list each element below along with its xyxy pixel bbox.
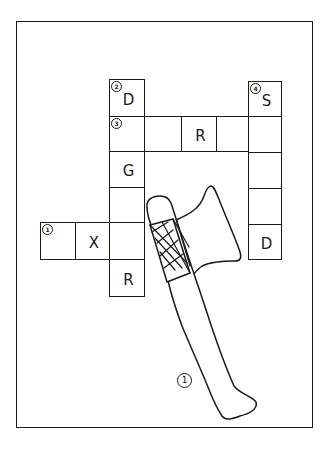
picture-clue-number: 1 (177, 373, 192, 388)
crossword-puzzle-page: 2D3R4SDG1XR 1 (0, 0, 329, 450)
axe-illustration (0, 0, 329, 450)
